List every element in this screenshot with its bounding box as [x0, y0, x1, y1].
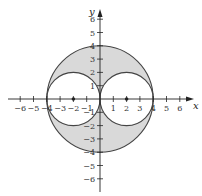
y-tick-label: −5 — [83, 162, 95, 171]
y-axis-label: y — [88, 6, 95, 17]
x-tick-label: 3 — [137, 104, 142, 113]
polar-region-diagram: −6−5−4−3−2−1123456654321−1−2−3−4−5−6xy — [0, 0, 202, 196]
x-tick-label: −5 — [28, 104, 40, 113]
x-tick-label: 6 — [177, 104, 182, 113]
y-axis-arrow-icon — [98, 9, 103, 17]
y-tick-label: −6 — [83, 175, 95, 184]
y-tick-label: −1 — [83, 108, 95, 117]
x-tick-label: 5 — [164, 104, 169, 113]
y-tick-label: −2 — [83, 122, 95, 131]
y-tick-label: −4 — [83, 148, 95, 157]
x-tick-label: 2 — [124, 104, 129, 113]
x-tick-label: 4 — [151, 104, 156, 113]
x-tick-label: −4 — [41, 104, 53, 113]
y-tick-label: 4 — [90, 42, 95, 51]
x-tick-label: −2 — [68, 104, 80, 113]
y-tick-label: 5 — [90, 29, 95, 38]
x-tick-label: 1 — [111, 104, 116, 113]
x-tick-label: −3 — [54, 104, 66, 113]
y-tick-label: 2 — [90, 68, 95, 77]
x-tick-label: −6 — [14, 104, 26, 113]
y-tick-label: 3 — [90, 55, 95, 64]
x-axis-label: x — [193, 100, 199, 111]
y-tick-label: 1 — [90, 82, 95, 91]
y-tick-label: −3 — [83, 135, 95, 144]
